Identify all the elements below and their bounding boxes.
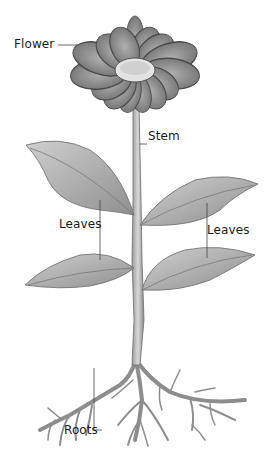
label-leaves-left: Leaves: [59, 218, 102, 230]
flower-illustration: [69, 16, 202, 115]
label-stem: Stem: [148, 130, 180, 142]
label-leaves-right: Leaves: [207, 224, 250, 236]
label-flower: Flower: [14, 38, 54, 50]
label-roots: Roots: [64, 424, 98, 436]
